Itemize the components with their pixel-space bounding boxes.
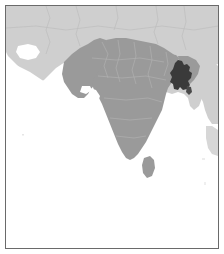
map-frame: Bangladesh India and Pakistan Surroundin… bbox=[5, 5, 219, 249]
locator-map-figure: Bangladesh India and Pakistan Surroundin… bbox=[0, 0, 224, 254]
map-canvas bbox=[6, 6, 218, 248]
coastal-haze-group bbox=[6, 94, 212, 194]
